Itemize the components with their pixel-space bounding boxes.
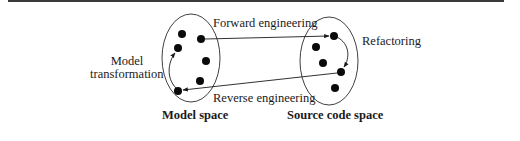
model-space-points: [174, 30, 210, 95]
refactoring-arrow: [337, 37, 348, 67]
forward-engineering-label: Forward engineering: [213, 17, 317, 30]
refactoring-label: Refactoring: [362, 35, 421, 48]
model-transformation-arrow: [169, 53, 176, 88]
model-transformation-label-line2: transformation: [90, 68, 162, 81]
source-code-space-label: Source code space: [287, 109, 383, 122]
reverse-engineering-label: Reverse engineering: [213, 92, 315, 105]
forward-engineering-arrow: [205, 36, 329, 39]
reverse-engineering-arrow: [183, 73, 337, 90]
source-code-space-points: [312, 32, 345, 92]
model-space-label: Model space: [162, 109, 228, 122]
